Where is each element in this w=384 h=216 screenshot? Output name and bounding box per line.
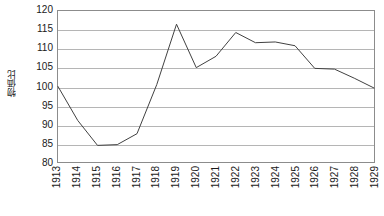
x-tick-label-1920: 1920 <box>191 166 201 190</box>
y-axis-title: 物価比 <box>0 0 22 166</box>
x-tick-text: 1928 <box>350 166 360 188</box>
x-tick-text: 1920 <box>191 166 201 188</box>
x-tick-label-1917: 1917 <box>132 166 142 190</box>
x-tick-label-1922: 1922 <box>231 166 241 190</box>
y-tick-label-80: 80 <box>22 158 53 168</box>
y-tick-label-120: 120 <box>22 5 53 15</box>
x-tick-label-1913: 1913 <box>52 166 62 190</box>
x-tick-text: 1923 <box>251 166 261 188</box>
y-tick-label-110: 110 <box>22 43 53 53</box>
line-chart: 物価比 12011511010510095908580 191319141915… <box>0 0 384 216</box>
y-tick-label-90: 90 <box>22 120 53 130</box>
x-tick-text: 1924 <box>271 166 281 188</box>
x-tick-text: 1916 <box>112 166 122 188</box>
x-tick-label-1924: 1924 <box>271 166 281 190</box>
x-tick-label-1916: 1916 <box>112 166 122 190</box>
x-tick-text: 1926 <box>310 166 320 188</box>
x-tick-label-1925: 1925 <box>291 166 301 190</box>
x-tick-label-1927: 1927 <box>330 166 340 190</box>
x-tick-text: 1925 <box>291 166 301 188</box>
x-tick-text: 1913 <box>52 166 62 188</box>
x-tick-text: 1929 <box>370 166 380 188</box>
plot-area <box>57 10 375 163</box>
y-tick-label-115: 115 <box>22 24 53 34</box>
y-tick-label-105: 105 <box>22 62 53 72</box>
x-tick-label-1918: 1918 <box>151 166 161 190</box>
x-tick-label-1914: 1914 <box>72 166 82 190</box>
x-tick-text: 1927 <box>330 166 340 188</box>
x-tick-label-1928: 1928 <box>350 166 360 190</box>
x-tick-label-1926: 1926 <box>310 166 320 190</box>
x-tick-label-1915: 1915 <box>92 166 102 190</box>
y-axis-title-label: 物価比 <box>7 70 16 97</box>
x-tick-text: 1914 <box>72 166 82 188</box>
x-tick-text: 1917 <box>132 166 142 188</box>
y-axis-tick-labels: 12011511010510095908580 <box>22 0 53 216</box>
y-tick-label-95: 95 <box>22 101 53 111</box>
x-tick-text: 1915 <box>92 166 102 188</box>
x-tick-label-1929: 1929 <box>370 166 380 190</box>
x-tick-text: 1921 <box>211 166 221 188</box>
x-tick-text: 1919 <box>171 166 181 188</box>
x-tick-text: 1918 <box>151 166 161 188</box>
x-axis-tick-labels: 1913191419151916191719181919192019211922… <box>57 164 375 216</box>
y-tick-label-85: 85 <box>22 139 53 149</box>
y-tick-label-100: 100 <box>22 82 53 92</box>
x-tick-label-1923: 1923 <box>251 166 261 190</box>
series-polyline <box>58 24 374 145</box>
x-tick-label-1919: 1919 <box>171 166 181 190</box>
series-line-price-ratio <box>58 11 374 162</box>
x-tick-label-1921: 1921 <box>211 166 221 190</box>
x-tick-text: 1922 <box>231 166 241 188</box>
